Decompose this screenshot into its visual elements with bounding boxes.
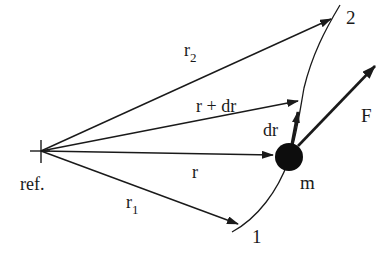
label-r: r xyxy=(192,162,198,182)
label-r-plus-dr: r + dr xyxy=(196,96,236,116)
label-reference: ref. xyxy=(20,174,44,194)
vector-r-plus-dr-arrow xyxy=(41,101,298,151)
vector-r-arrow xyxy=(41,151,273,155)
work-integral-diagram: r2 2 r + dr dr F r m ref. r1 1 xyxy=(0,0,378,257)
label-dr: dr xyxy=(263,120,278,140)
label-mass: m xyxy=(300,172,315,193)
label-force: F xyxy=(361,105,372,126)
label-r1: r1 xyxy=(126,192,139,217)
vector-r2-arrow xyxy=(41,19,331,151)
label-r2: r2 xyxy=(184,40,197,65)
mass-particle xyxy=(275,143,303,171)
label-point-1: 1 xyxy=(252,226,262,247)
vector-r1-arrow xyxy=(41,151,238,224)
label-point-2: 2 xyxy=(346,7,356,28)
